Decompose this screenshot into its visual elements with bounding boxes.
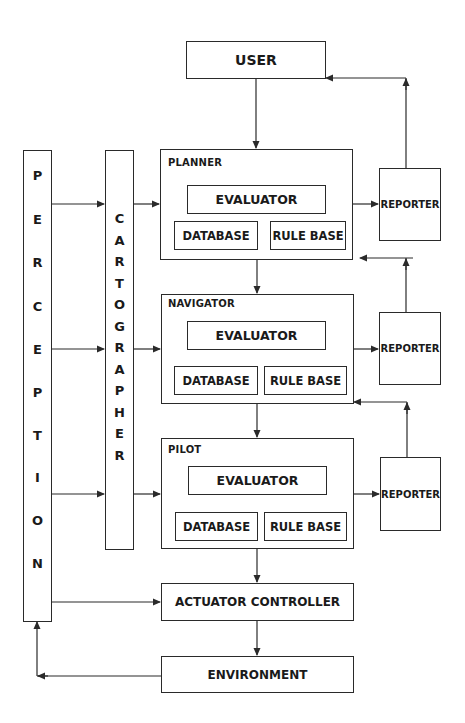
planner-title: PLANNER (168, 157, 222, 168)
perception-letter: C (24, 299, 51, 314)
pilot-evaluator: EVALUATOR (188, 466, 327, 495)
navigator-rule-base: RULE BASE (264, 366, 347, 395)
database-label: DATABASE (182, 229, 249, 243)
perception-letter: T (24, 428, 51, 443)
navigator-database: DATABASE (174, 366, 258, 395)
planner-rule-base: RULE BASE (270, 221, 346, 250)
navigator-evaluator: EVALUATOR (187, 321, 326, 350)
user-label: USER (235, 52, 277, 68)
perception-box: P E R C E P T I O N (23, 150, 52, 622)
pilot-database: DATABASE (175, 512, 258, 541)
reporter-label: REPORTER (381, 489, 440, 500)
cartographer-letter: T (106, 276, 133, 291)
rule-base-label: RULE BASE (270, 374, 341, 388)
reporter-label: REPORTER (381, 343, 440, 354)
navigator-title: NAVIGATOR (168, 298, 235, 309)
cartographer-letter: R (106, 340, 133, 355)
pilot-reporter: REPORTER (380, 457, 441, 531)
rule-base-label: RULE BASE (272, 229, 343, 243)
perception-letter: P (24, 385, 51, 400)
cartographer-letter: G (106, 319, 133, 334)
rule-base-label: RULE BASE (270, 520, 341, 534)
perception-letter: O (24, 513, 51, 528)
cartographer-letter: E (106, 426, 133, 441)
cartographer-letter: R (106, 254, 133, 269)
cartographer-letter: A (106, 362, 133, 377)
perception-letter: E (24, 212, 51, 227)
cartographer-letter: O (106, 297, 133, 312)
cartographer-letter: C (106, 211, 133, 226)
database-label: DATABASE (183, 520, 250, 534)
perception-letter: N (24, 556, 51, 571)
cartographer-letter: P (106, 383, 133, 398)
cartographer-box: C A R T O G R A P H E R (105, 150, 134, 550)
actuator-controller-label: ACTUATOR CONTROLLER (175, 595, 340, 609)
perception-letter: I (24, 470, 51, 485)
evaluator-label: EVALUATOR (216, 328, 298, 343)
perception-letter: E (24, 342, 51, 357)
environment-label: ENVIRONMENT (208, 668, 308, 682)
cartographer-letter: H (106, 405, 133, 420)
planner-reporter: REPORTER (379, 168, 441, 241)
pilot-title: PILOT (168, 444, 201, 455)
reporter-label: REPORTER (381, 199, 440, 210)
evaluator-label: EVALUATOR (217, 473, 299, 488)
perception-letter: R (24, 255, 51, 270)
navigator-reporter: REPORTER (379, 312, 441, 385)
planner-evaluator: EVALUATOR (187, 185, 326, 214)
user-box: USER (186, 41, 326, 79)
perception-letter: P (24, 168, 51, 183)
cartographer-letter: R (106, 448, 133, 463)
evaluator-label: EVALUATOR (216, 192, 298, 207)
environment-box: ENVIRONMENT (161, 656, 354, 693)
actuator-controller-box: ACTUATOR CONTROLLER (161, 583, 354, 621)
planner-database: DATABASE (174, 221, 258, 250)
cartographer-letter: A (106, 233, 133, 248)
pilot-rule-base: RULE BASE (264, 512, 347, 541)
database-label: DATABASE (182, 374, 249, 388)
